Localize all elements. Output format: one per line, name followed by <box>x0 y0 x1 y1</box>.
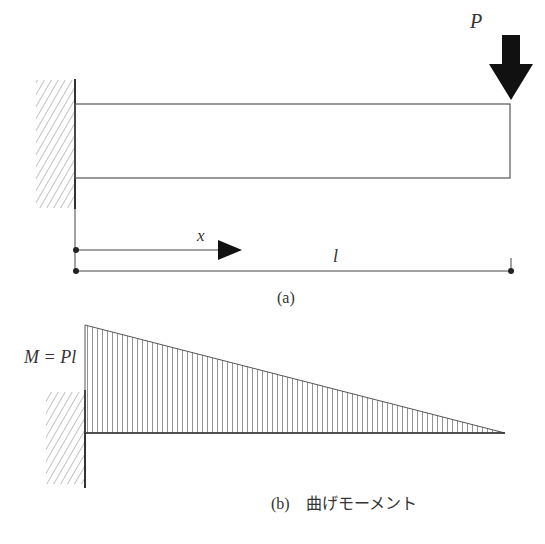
fixed-wall-a <box>36 79 75 209</box>
moment-label: M = Pl <box>24 347 76 368</box>
load-arrow-icon <box>489 35 533 100</box>
caption-b: (b) 曲げモーメント <box>271 490 417 514</box>
dimension-lines <box>73 209 514 274</box>
x-direction-arrow-icon <box>218 240 242 260</box>
length-label: l <box>333 246 338 267</box>
bending-moment-diagram <box>85 325 505 433</box>
cantilever-beam <box>75 104 510 178</box>
x-label: x <box>197 226 205 246</box>
load-label: P <box>470 10 482 33</box>
diagram-canvas <box>0 0 545 544</box>
fixed-wall-b <box>46 390 85 488</box>
caption-a: (a) <box>277 289 295 307</box>
